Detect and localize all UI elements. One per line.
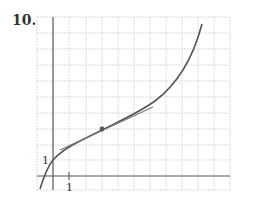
y-tick-label: 1	[42, 154, 49, 167]
x-tick-label: 1	[66, 181, 73, 194]
tangent-point	[100, 127, 105, 132]
grid	[37, 17, 230, 190]
graph: 1 1	[0, 0, 257, 205]
